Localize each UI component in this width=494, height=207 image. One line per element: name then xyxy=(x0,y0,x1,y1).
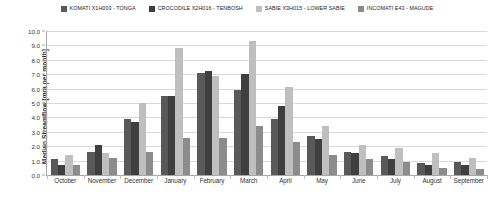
plot-area xyxy=(47,31,487,175)
bar-group xyxy=(47,31,84,175)
bar xyxy=(139,103,146,175)
legend-item-3[interactable]: INCOMATI E43 - MAGUDE xyxy=(358,6,434,12)
bar-group xyxy=(340,31,377,175)
legend-swatch-icon xyxy=(256,6,262,12)
y-axis-tick xyxy=(42,59,45,60)
legend-label: SABIE X3H015 - LOWER SABIE xyxy=(265,6,345,11)
legend-swatch-icon xyxy=(358,6,364,12)
bar xyxy=(58,165,65,175)
bar xyxy=(388,159,395,175)
bar xyxy=(175,48,182,175)
bar xyxy=(469,158,476,175)
bar xyxy=(73,165,80,175)
bar xyxy=(51,159,58,175)
bar-group xyxy=(120,31,157,175)
x-axis-tick-label: June xyxy=(340,177,377,184)
y-axis-tick xyxy=(42,131,45,132)
legend-swatch-icon xyxy=(149,6,155,12)
bar xyxy=(344,152,351,175)
bar xyxy=(219,138,226,175)
bar-group xyxy=(194,31,231,175)
bar xyxy=(315,139,322,175)
legend-item-2[interactable]: SABIE X3H015 - LOWER SABIE xyxy=(256,6,345,12)
y-axis-tick-label: 7.0 xyxy=(31,71,40,78)
bar xyxy=(102,153,109,175)
bar xyxy=(307,136,314,175)
x-axis-tick-label: January xyxy=(157,177,194,184)
y-axis-tick-label: 5.0 xyxy=(31,100,40,107)
chart-legend: KOMATI X1H003 - TONGACROCODILE X2H016 - … xyxy=(0,6,494,12)
x-axis-tick-label: October xyxy=(47,177,84,184)
bar xyxy=(249,41,256,175)
bar xyxy=(87,152,94,175)
y-axis-tick-label: 3.0 xyxy=(31,128,40,135)
x-axis-tick xyxy=(487,175,488,179)
bar xyxy=(395,148,402,175)
bar xyxy=(109,158,116,175)
x-axis-tick-label: April xyxy=(267,177,304,184)
x-axis-tick-label: September xyxy=(450,177,487,184)
bar xyxy=(366,159,373,175)
x-axis-tick-label: December xyxy=(120,177,157,184)
bar xyxy=(454,162,461,175)
bar xyxy=(293,142,300,175)
x-axis-tick-label: July xyxy=(377,177,414,184)
y-axis-tick xyxy=(42,160,45,161)
bar xyxy=(212,76,219,175)
bar xyxy=(161,96,168,175)
y-axis-tick xyxy=(42,117,45,118)
x-axis-tick-label: March xyxy=(230,177,267,184)
bar xyxy=(205,71,212,175)
y-axis-tick-label: 4.0 xyxy=(31,114,40,121)
bar xyxy=(131,122,138,175)
bar xyxy=(146,152,153,175)
bar-group xyxy=(84,31,121,175)
bar xyxy=(271,119,278,175)
y-axis-tick xyxy=(42,31,45,32)
x-axis-tick-label: August xyxy=(414,177,451,184)
bar-group xyxy=(157,31,194,175)
bar xyxy=(95,145,102,175)
y-axis-tick-label: 2.0 xyxy=(31,143,40,150)
bar xyxy=(234,90,241,175)
y-axis-tick xyxy=(42,103,45,104)
y-axis-tick xyxy=(42,74,45,75)
y-axis-labels: 10.09.08.07.06.05.04.03.02.01.00.0 xyxy=(0,31,45,175)
streamflow-bar-chart: KOMATI X1H003 - TONGACROCODILE X2H016 - … xyxy=(0,0,494,207)
legend-label: INCOMATI E43 - MAGUDE xyxy=(367,6,434,11)
y-axis-tick-label: 6.0 xyxy=(31,85,40,92)
bar xyxy=(285,87,292,175)
bar-group xyxy=(450,31,487,175)
y-axis-tick-label: 8.0 xyxy=(31,56,40,63)
legend-item-1[interactable]: CROCODILE X2H016 - TENBOSH xyxy=(149,6,243,12)
bar xyxy=(381,156,388,175)
bar xyxy=(241,74,248,175)
y-axis-tick-label: 10.0 xyxy=(28,28,40,35)
bar-group xyxy=(377,31,414,175)
x-axis-tick-label: November xyxy=(84,177,121,184)
x-axis-labels: OctoberNovemberDecemberJanuaryFebruaryMa… xyxy=(47,177,487,184)
legend-label: KOMATI X1H003 - TONGA xyxy=(70,6,136,11)
legend-label: CROCODILE X2H016 - TENBOSH xyxy=(158,6,243,11)
y-axis-tick-label: 9.0 xyxy=(31,42,40,49)
bar xyxy=(124,119,131,175)
bar xyxy=(403,162,410,175)
bar-groups xyxy=(47,31,487,175)
y-axis-tick xyxy=(42,88,45,89)
bar xyxy=(183,138,190,175)
y-axis-tick xyxy=(42,146,45,147)
bar-group xyxy=(304,31,341,175)
bar-group xyxy=(267,31,304,175)
bar-group xyxy=(414,31,451,175)
bar-group xyxy=(230,31,267,175)
x-axis-tick-label: May xyxy=(304,177,341,184)
x-axis-tick-label: February xyxy=(194,177,231,184)
bar xyxy=(278,106,285,175)
legend-swatch-icon xyxy=(61,6,67,12)
bar xyxy=(329,155,336,175)
bar xyxy=(461,165,468,175)
bar xyxy=(168,96,175,175)
bar xyxy=(439,168,446,175)
legend-item-0[interactable]: KOMATI X1H003 - TONGA xyxy=(61,6,136,12)
bar xyxy=(65,155,72,175)
